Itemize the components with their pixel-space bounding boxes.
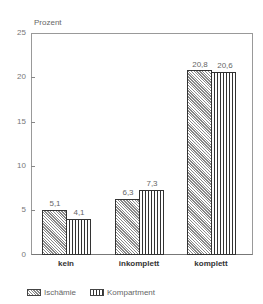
y-tick-25: 25 <box>0 28 26 37</box>
bar-kein-kompartment <box>66 219 91 255</box>
bar-inkomplett-kompartment <box>139 190 164 255</box>
y-tick-20: 20 <box>0 72 26 81</box>
y-tick-5: 5 <box>0 205 26 214</box>
y-tick-0: 0 <box>0 250 26 259</box>
vertical-lines-swatch-icon <box>90 289 104 296</box>
y-tick-15: 15 <box>0 117 26 126</box>
bar-inkomplett-ischaemie <box>115 199 140 255</box>
x-category-komplett: komplett <box>181 259 241 268</box>
x-category-kein: kein <box>36 259 96 268</box>
legend-item-ischaemie: Ischämie <box>27 288 76 297</box>
tick-mark <box>31 122 35 123</box>
legend-item-kompartment: Kompartment <box>90 288 155 297</box>
value-label: 4,1 <box>64 208 94 217</box>
legend-label: Ischämie <box>44 288 76 297</box>
bar-komplett-kompartment <box>211 72 236 255</box>
y-axis-label: Prozent <box>34 18 62 27</box>
tick-mark <box>31 166 35 167</box>
y-tick-10: 10 <box>0 161 26 170</box>
hatch-swatch-icon <box>27 289 41 296</box>
x-category-inkomplett: inkomplett <box>109 259 169 268</box>
tick-mark <box>31 210 35 211</box>
bar-komplett-ischaemie <box>187 70 212 255</box>
tick-mark <box>31 77 35 78</box>
value-label: 6,3 <box>113 188 143 197</box>
value-label: 20,6 <box>210 61 240 70</box>
legend: Ischämie Kompartment <box>27 288 169 297</box>
legend-label: Kompartment <box>107 288 155 297</box>
value-label: 5,1 <box>40 199 70 208</box>
value-label: 7,3 <box>137 179 167 188</box>
